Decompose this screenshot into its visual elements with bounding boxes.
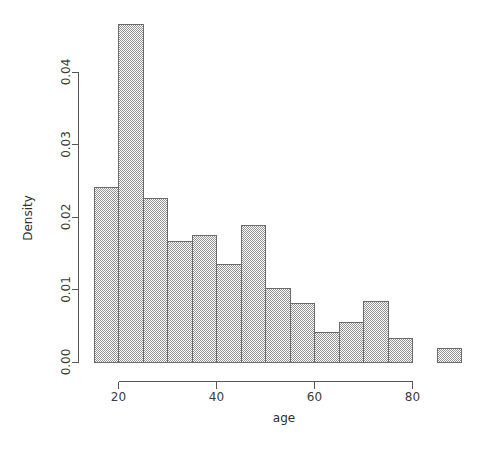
y-tick-label: 0.00	[59, 349, 73, 376]
histogram-bar	[266, 289, 291, 362]
plot-canvas: 0.000.010.020.030.04 20406080 age Densit…	[0, 0, 491, 451]
histogram-bar	[168, 242, 193, 362]
x-tick-label: 40	[209, 390, 224, 404]
x-tick-labels: 20406080	[111, 390, 420, 404]
histogram-plot: 0.000.010.020.030.04 20406080 age Densit…	[0, 0, 491, 451]
histogram-bar	[192, 236, 217, 362]
bars-group	[94, 24, 462, 362]
y-tick-labels: 0.000.010.020.030.04	[59, 59, 73, 376]
y-tick-marks	[72, 72, 79, 362]
y-tick-label: 0.03	[59, 131, 73, 158]
x-tick-label: 60	[307, 390, 322, 404]
histogram-bar	[119, 24, 144, 362]
y-tick-label: 0.02	[59, 204, 73, 231]
x-tick-label: 20	[111, 390, 126, 404]
histogram-bar	[217, 265, 242, 362]
histogram-bar	[315, 332, 340, 362]
y-axis: 0.000.010.020.030.04	[59, 59, 79, 376]
histogram-bar	[143, 198, 168, 362]
y-axis-title: Density	[21, 195, 35, 241]
histogram-bar	[290, 303, 315, 362]
histogram-bar	[339, 322, 364, 362]
x-axis: 20406080	[111, 382, 420, 405]
histogram-bar	[94, 187, 119, 362]
x-tick-label: 80	[405, 390, 420, 404]
histogram-bar	[364, 301, 389, 362]
histogram-bar	[388, 338, 413, 362]
histogram-bar	[241, 226, 266, 362]
histogram-bar	[437, 349, 462, 362]
x-axis-title: age	[273, 411, 295, 425]
y-tick-label: 0.01	[59, 276, 73, 303]
y-tick-label: 0.04	[59, 59, 73, 86]
x-tick-marks	[119, 382, 413, 389]
